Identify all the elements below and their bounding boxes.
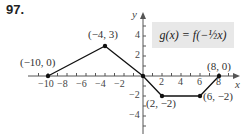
x-axis-label: x bbox=[235, 78, 240, 90]
formula-box: g(x) = f(−½x) bbox=[152, 22, 234, 48]
point-label: (8, 0) bbox=[207, 60, 231, 72]
point-label: (−4, 3) bbox=[88, 28, 118, 40]
point-label: (2, −2) bbox=[146, 97, 176, 109]
y-axis-arrow-icon bbox=[140, 12, 146, 19]
y-axis-label: y bbox=[132, 8, 137, 20]
x-tick-label: −6 bbox=[76, 78, 87, 89]
x-tick-label: 6 bbox=[197, 76, 202, 87]
point-label: (−10, 0) bbox=[20, 56, 56, 68]
point-label: (6, −2) bbox=[203, 90, 233, 102]
y-tick-label: 2 bbox=[135, 49, 140, 60]
y-tick-label: −4 bbox=[129, 109, 140, 120]
y-tick-label: 4 bbox=[135, 29, 140, 40]
x-tick-label: 2 bbox=[159, 76, 164, 87]
x-tick-label: 4 bbox=[178, 76, 183, 87]
x-tick-label: −2 bbox=[114, 78, 125, 89]
x-tick-label: 8 bbox=[216, 76, 221, 87]
y-tick-label: −2 bbox=[129, 89, 140, 100]
x-tick-label: −8 bbox=[57, 78, 68, 89]
x-tick-label: −4 bbox=[95, 78, 106, 89]
x-tick-label: −10 bbox=[38, 78, 54, 89]
